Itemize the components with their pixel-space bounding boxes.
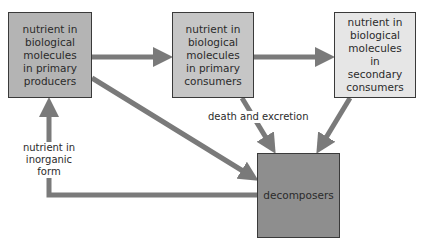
label-death-and-excretion: death and excretion (207, 111, 309, 123)
node-primary-consumers: nutrient in biological molecules in prim… (172, 12, 254, 98)
node-secondary-consumers-label: nutrient in biological molecules in seco… (335, 16, 415, 94)
label-nutrient-inorganic-form: nutrient in inorganic form (13, 142, 85, 178)
node-secondary-consumers: nutrient in biological molecules in seco… (334, 12, 416, 98)
node-primary-consumers-label: nutrient in biological molecules in prim… (176, 23, 249, 88)
node-primary-producers: nutrient in biological molecules in prim… (8, 12, 92, 98)
node-decomposers: decomposers (257, 153, 340, 238)
node-decomposers-label: decomposers (259, 189, 337, 202)
arrow-secondary-consumers-to-decomposers (321, 98, 350, 146)
node-primary-producers-label: nutrient in biological molecules in prim… (15, 23, 86, 88)
